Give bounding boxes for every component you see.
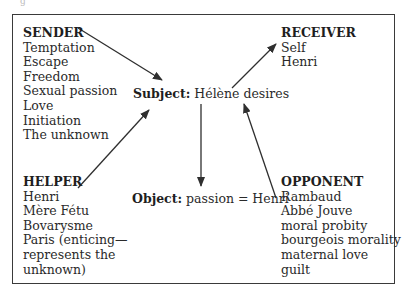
opponent-item: Rambaud: [281, 190, 401, 205]
opponent-item: moral probity: [281, 219, 401, 234]
opponent-item: maternal love: [281, 248, 401, 263]
sender-item: Initiation: [23, 114, 117, 129]
sender-item: Escape: [23, 55, 117, 70]
helper-title: HELPER: [23, 175, 128, 190]
object-value: passion = Henri: [186, 191, 289, 206]
subject-label: Subject: Hélène desires: [133, 86, 289, 101]
opponent-item: Abbé Jouve: [281, 204, 401, 219]
opponent-title: OPPONENT: [281, 175, 401, 190]
sender-item: Love: [23, 99, 117, 114]
subject-value: Hélène desires: [194, 86, 289, 101]
subject-key: Subject:: [133, 86, 190, 101]
sender-block: SENDER Temptation Escape Freedom Sexual …: [23, 26, 117, 143]
object-key: Object:: [132, 191, 182, 206]
receiver-block: RECEIVER Self Henri: [281, 26, 356, 70]
arrow-opponent-to-subject: [244, 104, 276, 198]
opponent-item: guilt: [281, 263, 401, 278]
opponent-item: bourgeois morality: [281, 233, 401, 248]
helper-block: HELPER Henri Mère Fétu Bovarysme Paris (…: [23, 175, 128, 277]
helper-item: Mère Fétu: [23, 204, 128, 219]
receiver-item: Self: [281, 41, 356, 56]
receiver-item: Henri: [281, 55, 356, 70]
sender-item: Freedom: [23, 70, 117, 85]
sender-item: The unknown: [23, 128, 117, 143]
sender-item: Sexual passion: [23, 84, 117, 99]
helper-item: Henri: [23, 190, 128, 205]
sender-item: Temptation: [23, 41, 117, 56]
sender-title: SENDER: [23, 26, 117, 41]
helper-item: Paris (enticing—: [23, 233, 128, 248]
arrow-subject-to-receiver: [232, 44, 276, 88]
helper-item: Bovarysme: [23, 219, 128, 234]
object-label: Object: passion = Henri: [132, 191, 289, 206]
receiver-title: RECEIVER: [281, 26, 356, 41]
opponent-block: OPPONENT Rambaud Abbé Jouve moral probit…: [281, 175, 401, 277]
helper-item: unknown): [23, 263, 128, 278]
helper-item: represents the: [23, 248, 128, 263]
